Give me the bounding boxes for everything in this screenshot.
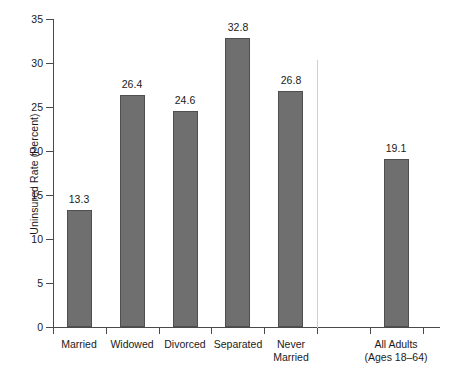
bar-married [67, 210, 92, 327]
y-tick-label: 5 [0, 278, 43, 289]
y-tick-mark [46, 107, 53, 108]
bar-value-label-widowed: 26.4 [102, 79, 162, 90]
y-tick-mark [46, 151, 53, 152]
bar-chart: Uninsured Rate (Percent) 35302520151050 … [0, 0, 450, 381]
bar-value-label-divorced: 24.6 [155, 95, 215, 106]
y-tick-label: 30 [0, 58, 43, 69]
x-tick-mark [53, 328, 54, 334]
x-tick-mark [423, 328, 424, 334]
x-tick-mark [370, 328, 371, 334]
x-category-label-line1: Never [277, 338, 305, 350]
x-axis-line [53, 327, 440, 328]
y-tick-label: 25 [0, 102, 43, 113]
x-category-label-line2: (Ages 18–64) [351, 351, 441, 364]
y-tick-label: 20 [0, 146, 43, 157]
x-tick-mark [211, 328, 212, 334]
x-tick-mark [159, 328, 160, 334]
x-category-label-line1: All Adults [374, 338, 417, 350]
y-tick-mark [46, 239, 53, 240]
bar-value-label-married: 13.3 [49, 194, 109, 205]
x-category-label-line2: Married [246, 351, 336, 364]
y-tick-mark [46, 327, 53, 328]
bar-separated [225, 38, 250, 327]
y-tick-mark [46, 63, 53, 64]
y-tick-label: 10 [0, 234, 43, 245]
x-tick-mark [317, 328, 318, 334]
bar-widowed [120, 95, 145, 327]
bar-all-adults [384, 159, 409, 327]
y-tick-mark [46, 19, 53, 20]
x-category-label-all-adults: All Adults(Ages 18–64) [351, 338, 441, 364]
y-tick-label: 35 [0, 14, 43, 25]
group-separator-line [317, 60, 318, 328]
x-category-label-never-married: NeverMarried [246, 338, 336, 364]
y-tick-label: 0 [0, 322, 43, 333]
x-tick-mark [264, 328, 265, 334]
bar-never-married [278, 91, 303, 327]
y-tick-label: 15 [0, 190, 43, 201]
bar-divorced [173, 111, 198, 327]
bar-value-label-all-adults: 19.1 [366, 143, 426, 154]
y-tick-mark [46, 283, 53, 284]
bar-value-label-separated: 32.8 [208, 22, 268, 33]
bar-value-label-never-married: 26.8 [261, 75, 321, 86]
y-axis-line [53, 19, 54, 328]
x-tick-mark [106, 328, 107, 334]
